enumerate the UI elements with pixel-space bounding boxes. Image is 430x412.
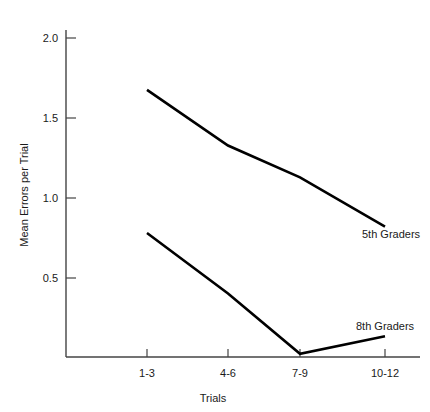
x-axis-title: Trials bbox=[200, 392, 227, 404]
y-axis-title: Mean Errors per Trial bbox=[18, 143, 30, 246]
chart-svg: 2.0 1.5 1.0 0.5 1-3 4-6 7-9 10-12 Trials… bbox=[0, 0, 430, 412]
y-tick-label-1-0: 1.0 bbox=[43, 192, 58, 204]
x-tick-label-10-12: 10-12 bbox=[371, 367, 399, 379]
x-tick-label-7-9: 7-9 bbox=[292, 367, 308, 379]
y-tick-label-2-0: 2.0 bbox=[43, 32, 58, 44]
x-tick-label-4-6: 4-6 bbox=[220, 367, 236, 379]
y-tick-label-1-5: 1.5 bbox=[43, 112, 58, 124]
y-tick-label-0-5: 0.5 bbox=[43, 272, 58, 284]
series-label-8th-graders: 8th Graders bbox=[356, 320, 415, 332]
x-tick-label-1-3: 1-3 bbox=[139, 367, 155, 379]
series-line-8th-graders bbox=[147, 233, 385, 354]
series-label-5th-graders: 5th Graders bbox=[362, 228, 421, 240]
series-line-5th-graders bbox=[147, 90, 385, 227]
line-chart-figure: 2.0 1.5 1.0 0.5 1-3 4-6 7-9 10-12 Trials… bbox=[0, 0, 430, 412]
